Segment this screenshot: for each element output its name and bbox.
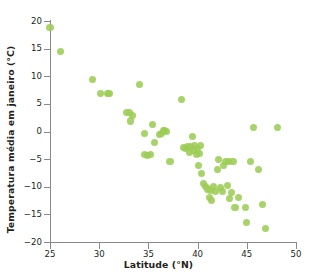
data-point — [195, 162, 202, 169]
data-point — [219, 188, 226, 195]
data-point — [97, 90, 104, 97]
x-tick-label: 40 — [183, 250, 213, 259]
data-point — [136, 81, 143, 88]
data-point — [247, 158, 254, 165]
x-axis-title: Latitude (°N) — [0, 259, 317, 270]
y-tick-label: 10 — [12, 72, 42, 81]
data-point — [141, 130, 148, 137]
x-axis-line — [50, 242, 297, 243]
data-point — [151, 139, 158, 146]
data-point — [231, 204, 238, 211]
data-point — [46, 24, 53, 31]
data-point — [208, 197, 215, 204]
x-tick-label: 45 — [232, 250, 262, 259]
data-point — [127, 117, 134, 124]
data-point — [166, 158, 173, 165]
data-point — [189, 133, 196, 140]
data-point — [224, 182, 231, 189]
plot-area — [50, 21, 296, 242]
data-point — [163, 128, 170, 135]
y-tick-label: 20 — [12, 17, 42, 26]
y-tick-label: 0 — [12, 127, 42, 136]
y-tick-label: −10 — [12, 182, 42, 191]
data-point — [243, 219, 250, 226]
data-point — [149, 121, 156, 128]
data-point — [89, 76, 96, 83]
y-tick-label: −20 — [12, 238, 42, 247]
y-tick-label: −5 — [12, 155, 42, 164]
y-tick-label: 5 — [12, 99, 42, 108]
x-tick-label: 25 — [35, 250, 65, 259]
data-point — [57, 48, 64, 55]
x-tick-label: 35 — [133, 250, 163, 259]
data-point — [197, 142, 204, 149]
data-point — [105, 90, 112, 97]
data-point — [262, 225, 269, 232]
data-point — [235, 194, 242, 201]
data-point — [274, 124, 281, 131]
data-point — [196, 150, 203, 157]
y-tick-label: −15 — [12, 210, 42, 219]
data-point — [242, 204, 249, 211]
y-tick-label: 15 — [12, 44, 42, 53]
data-point — [178, 96, 185, 103]
data-point — [250, 124, 257, 131]
data-point — [259, 201, 266, 208]
data-point — [198, 170, 205, 177]
data-point — [228, 189, 235, 196]
x-tick-label: 50 — [281, 250, 311, 259]
x-tick-label: 30 — [84, 250, 114, 259]
data-point — [147, 151, 154, 158]
data-point — [255, 166, 262, 173]
data-point — [229, 158, 236, 165]
scatter-chart-figure: Temperatura média em janeiro (°C) Latitu… — [0, 0, 317, 279]
